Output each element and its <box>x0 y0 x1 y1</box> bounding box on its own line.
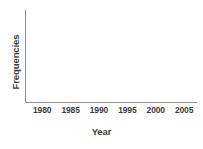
x-axis-tick-labels: 1980 1985 1990 1995 2000 2005 <box>25 105 197 116</box>
y-axis-line <box>25 10 26 103</box>
x-tick-label: 1995 <box>118 105 136 116</box>
x-tick-label: 2000 <box>147 105 165 116</box>
x-tick-label: 1990 <box>90 105 108 116</box>
plot-area <box>26 10 197 102</box>
x-tick-label: 1980 <box>33 105 51 116</box>
chart-figure: Frequencies 1980 1985 1990 1995 2000 200… <box>0 0 203 149</box>
x-tick-label: 2005 <box>175 105 193 116</box>
x-axis-line <box>25 102 197 103</box>
x-tick-label: 1985 <box>61 105 79 116</box>
x-axis-title: Year <box>0 126 203 137</box>
y-axis-title: Frequencies <box>10 35 21 90</box>
